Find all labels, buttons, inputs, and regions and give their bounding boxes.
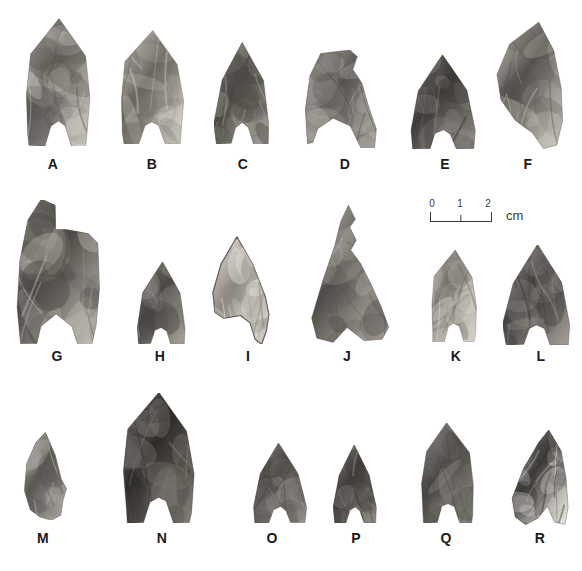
artifact-label-m: M [23,530,63,546]
scale-bar-ruler [430,212,492,222]
artifact-h [136,262,186,344]
artifact-label-g: G [37,348,77,364]
artifact-label-h: H [140,348,180,364]
artifact-c [214,42,270,144]
artifact-plate-figure: ABCDEFGHIJKLMNOPQR 0 1 2 cm [0,0,582,571]
artifact-label-j: J [327,348,367,364]
artifact-d [305,50,377,148]
scale-tick-label-0: 0 [425,198,439,209]
artifact-l [503,245,571,345]
scale-unit-label: cm [506,208,523,223]
artifact-b [120,30,184,144]
artifact-o [253,443,307,523]
artifact-label-d: D [325,156,365,172]
artifact-label-q: Q [426,530,466,546]
artifact-k [430,250,478,342]
artifact-i [212,236,270,344]
scale-bar-mid-tick [460,215,461,221]
artifact-g [16,200,101,344]
artifact-label-b: B [132,156,172,172]
artifact-m [22,432,67,520]
artifact-label-o: O [252,530,292,546]
artifact-label-p: P [336,530,376,546]
artifact-j [310,205,390,343]
artifact-label-a: A [33,156,73,172]
artifact-e [410,55,476,149]
artifact-label-l: L [521,348,561,364]
artifact-f [495,22,563,149]
scale-bar: 0 1 2 cm [430,198,535,232]
artifact-label-i: I [228,348,268,364]
scale-tick-label-1: 1 [453,198,467,209]
artifact-label-f: F [508,156,548,172]
artifact-label-r: R [520,530,560,546]
artifact-label-e: E [425,156,465,172]
scale-tick-label-2: 2 [481,198,495,209]
artifact-label-c: C [223,156,263,172]
artifact-a [25,18,91,146]
artifact-p [333,445,377,523]
artifact-label-k: K [436,348,476,364]
artifact-label-n: N [142,530,182,546]
artifact-q [420,423,476,523]
artifact-n [122,393,195,523]
artifact-r [511,430,569,525]
